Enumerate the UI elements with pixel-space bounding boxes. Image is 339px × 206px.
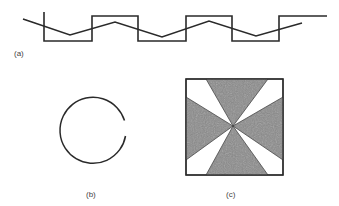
panel-a-waveforms (23, 12, 327, 41)
triangle-wave (23, 19, 302, 37)
panel-b-open-circle (60, 97, 126, 163)
circle-arc (60, 97, 126, 163)
panel-b-label: (b) (86, 190, 96, 199)
panel-a-label: (a) (14, 49, 24, 58)
figure-canvas (0, 0, 339, 206)
panel-c-label: (c) (226, 190, 235, 199)
square-wave (44, 12, 327, 41)
panel-c-sector-square (186, 79, 283, 175)
